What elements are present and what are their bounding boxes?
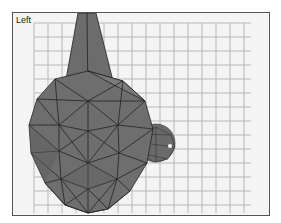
viewport-canvas[interactable]	[13, 13, 270, 216]
left-viewport[interactable]: Left	[12, 12, 270, 216]
viewport-label[interactable]: Left	[16, 15, 31, 25]
